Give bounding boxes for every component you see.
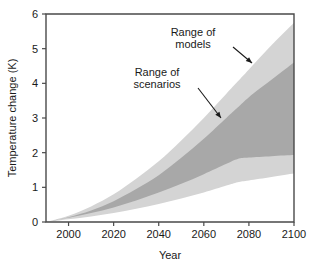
x-tick-label: 2020 bbox=[101, 228, 125, 240]
y-tick-label: 2 bbox=[32, 147, 38, 159]
y-tick-label: 6 bbox=[32, 8, 38, 20]
y-tick-label: 0 bbox=[32, 216, 38, 228]
y-tick-label: 1 bbox=[32, 181, 38, 193]
climate-projection-figure: 0123456 200020202040206020802100 Range o… bbox=[0, 0, 321, 268]
x-tick-label: 2100 bbox=[282, 228, 306, 240]
annotation-label-line1: Range of bbox=[171, 26, 217, 38]
annotation-label-line2: models bbox=[175, 38, 211, 50]
x-tick-label: 2040 bbox=[146, 228, 170, 240]
y-axis-title: Temperature change (K) bbox=[6, 59, 18, 178]
x-tick-label: 2060 bbox=[192, 228, 216, 240]
annotation-label-line1: Range of bbox=[135, 66, 181, 78]
y-tick-label: 5 bbox=[32, 43, 38, 55]
y-tick-label: 4 bbox=[32, 77, 38, 89]
annotation-label-line2: scenarios bbox=[133, 78, 181, 90]
temperature-change-area-chart: 0123456 200020202040206020802100 Range o… bbox=[0, 0, 321, 268]
x-axis-title: Year bbox=[159, 249, 182, 261]
x-tick-label: 2000 bbox=[56, 228, 80, 240]
y-tick-label: 3 bbox=[32, 112, 38, 124]
x-tick-label: 2080 bbox=[237, 228, 261, 240]
